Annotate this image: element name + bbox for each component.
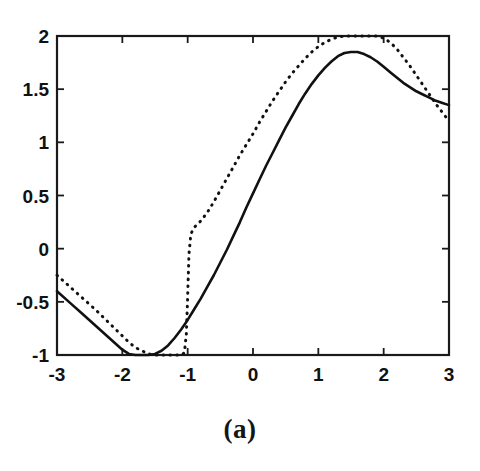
y-tick-label-5: 1.5 bbox=[23, 79, 50, 100]
y-tick-label-6: 2 bbox=[38, 26, 49, 47]
x-tick-label-3: 0 bbox=[248, 364, 259, 385]
y-tick-label-0: -1 bbox=[32, 345, 49, 366]
y-tick-label-3: 0.5 bbox=[23, 186, 50, 207]
y-tick-label-1: -0.5 bbox=[16, 292, 49, 313]
chart-canvas: -1-0.500.511.52 -3-2-10123 bbox=[0, 0, 480, 471]
x-tick-label-0: -3 bbox=[49, 364, 66, 385]
x-tick-label-4: 1 bbox=[313, 364, 324, 385]
figure-container: -1-0.500.511.52 -3-2-10123 (a) bbox=[0, 0, 480, 471]
x-axis-tick-labels: -3-2-10123 bbox=[49, 364, 455, 385]
x-tick-label-5: 2 bbox=[378, 364, 389, 385]
y-tick-label-4: 1 bbox=[38, 132, 49, 153]
x-tick-label-1: -2 bbox=[114, 364, 131, 385]
x-tick-label-2: -1 bbox=[179, 364, 196, 385]
x-tick-label-6: 3 bbox=[444, 364, 455, 385]
series-solid-curve bbox=[57, 52, 449, 355]
data-series-group bbox=[57, 36, 449, 355]
y-tick-label-2: 0 bbox=[38, 239, 49, 260]
y-axis-tick-labels: -1-0.500.511.52 bbox=[16, 26, 49, 366]
figure-caption: (a) bbox=[0, 414, 480, 445]
